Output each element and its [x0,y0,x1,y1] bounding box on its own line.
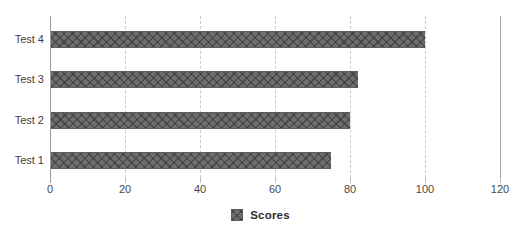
plot-right-border-line [500,16,501,178]
x-axis-label-80: 80 [330,183,370,195]
x-axis-label-60: 60 [255,183,295,195]
gridline-100 [425,16,426,178]
bar-test-2 [51,112,350,129]
x-axis-label-20: 20 [105,183,145,195]
x-axis-label-0: 0 [30,183,70,195]
bar-test-4 [51,31,425,48]
y-axis-label-test-3: Test 3 [15,71,44,88]
x-axis-label-120: 120 [480,183,520,195]
bar-chart: 020406080100120Test 1Test 2Test 3Test 4 … [0,0,521,239]
category-axis-line [50,16,51,178]
bar-test-1 [51,152,331,169]
x-axis-label-100: 100 [405,183,445,195]
legend-label-scores: Scores [250,209,290,221]
bar-test-3 [51,71,358,88]
y-axis-label-test-4: Test 4 [15,31,44,48]
chart-legend: Scores [0,209,521,221]
scores-hatched-swatch [231,209,243,221]
x-axis-label-40: 40 [180,183,220,195]
y-axis-label-test-2: Test 2 [15,112,44,129]
y-axis-label-test-1: Test 1 [15,152,44,169]
